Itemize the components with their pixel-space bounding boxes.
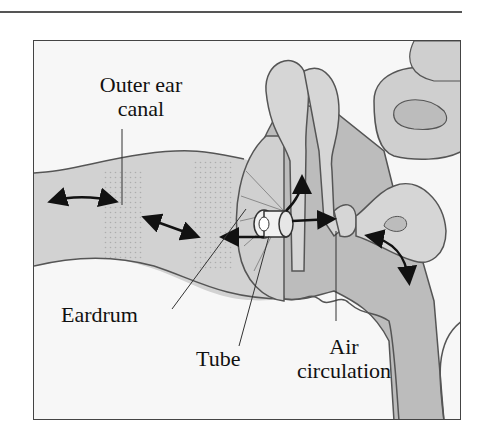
label-outer-ear-canal: Outer ear canal [86, 73, 196, 121]
label-eardrum: Eardrum [61, 303, 138, 327]
label-air-circulation-line2: circulation [289, 359, 399, 383]
diagram-frame: Outer ear canal Eardrum Tube Air circula… [33, 40, 461, 420]
label-air-circulation-line1: Air [289, 335, 399, 359]
label-outer-ear-canal-line2: canal [86, 97, 196, 121]
label-tube: Tube [196, 347, 240, 371]
label-outer-ear-canal-line1: Outer ear [86, 73, 196, 97]
top-horizontal-rule [0, 11, 462, 13]
ventilation-tube [254, 210, 293, 238]
label-air-circulation: Air circulation [289, 335, 399, 383]
